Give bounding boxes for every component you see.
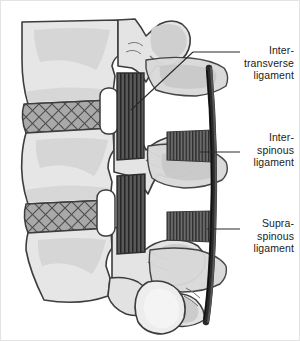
- ligament-band-lower: [117, 174, 145, 254]
- vertebral-canal-lower: [97, 190, 115, 236]
- ligament-band-upper: [117, 73, 144, 160]
- anatomy-figure: Inter- transverse ligament Inter- spinou…: [0, 0, 300, 341]
- vertebral-canal-upper: [100, 88, 118, 134]
- label-supraspinous-ligament: Supra- spinous ligament: [220, 217, 294, 255]
- interspinous-ligament-lower: [167, 211, 211, 242]
- label-intertransverse-ligament: Inter- transverse ligament: [220, 44, 294, 82]
- label-interspinous-ligament: Inter- spinous ligament: [220, 131, 294, 169]
- interspinous-ligament-upper: [167, 130, 212, 162]
